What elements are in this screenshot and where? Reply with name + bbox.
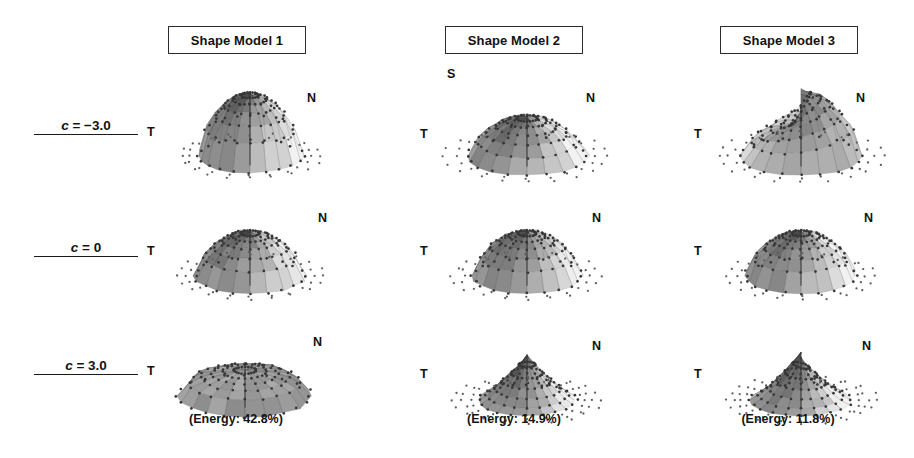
axis-marker-t-r1c3: T: [694, 128, 702, 141]
column-header-label: Shape Model 1: [191, 33, 283, 48]
shape-model-figure: Shape Model 1 Shape Model 2 Shape Model …: [0, 0, 914, 458]
row-label-value: = −3.0: [69, 118, 111, 133]
row-label-c-negative-3: c = −3.0: [34, 118, 138, 135]
row-label-value: = 0: [78, 240, 101, 255]
column-header-shape-model-2: Shape Model 2: [445, 26, 583, 54]
axis-marker-t-r2c2: T: [420, 245, 428, 258]
axis-marker-t-r3c3: T: [694, 368, 702, 381]
column-header-label: Shape Model 3: [743, 33, 835, 48]
axis-marker-t-r2c1: T: [147, 245, 155, 258]
row-label-value: = 3.0: [73, 358, 107, 373]
row-label-c-positive-3: c = 3.0: [34, 358, 138, 375]
surface-plot-r2c1: [155, 192, 345, 308]
axis-marker-t-r2c3: T: [694, 245, 702, 258]
energy-caption-shape-model-2: (Energy: 14.9%): [424, 412, 604, 426]
surface-plot-r1c2: [432, 72, 622, 188]
surface-plot-r2c3: [706, 192, 896, 308]
energy-caption-shape-model-1: (Energy: 42.8%): [146, 412, 326, 426]
row-label-variable: c: [61, 118, 69, 133]
axis-marker-t-r3c2: T: [420, 368, 428, 381]
column-header-shape-model-3: Shape Model 3: [720, 26, 858, 54]
surface-plot-r3c1: [150, 312, 340, 428]
axis-marker-t-r1c1: T: [147, 126, 155, 139]
surface-plot-r1c3: [706, 72, 896, 188]
surface-plot-r2c2: [432, 192, 622, 308]
energy-caption-shape-model-3: (Energy: 11.8%): [698, 412, 878, 426]
row-label-variable: c: [65, 358, 73, 373]
column-header-shape-model-1: Shape Model 1: [168, 26, 306, 54]
surface-plot-r1c1: [155, 72, 345, 188]
row-label-c-zero: c = 0: [34, 240, 138, 257]
axis-marker-t-r1c2: T: [420, 128, 428, 141]
column-header-label: Shape Model 2: [468, 33, 560, 48]
